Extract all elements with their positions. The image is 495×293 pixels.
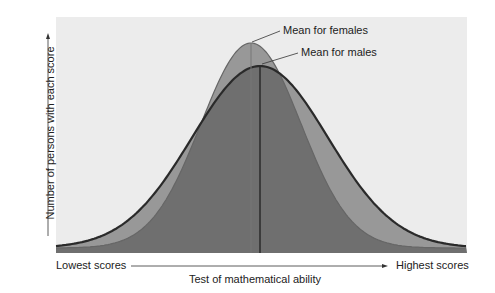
mean-females-label: Mean for females	[283, 24, 368, 36]
x-axis-title: Test of mathematical ability	[189, 273, 321, 285]
x-arrow-head-icon	[382, 264, 388, 268]
mean-males-label: Mean for males	[301, 46, 377, 58]
chart-canvas	[0, 0, 495, 293]
lowest-scores-label: Lowest scores	[56, 259, 126, 271]
highest-scores-label: Highest scores	[396, 259, 469, 271]
y-axis-title: Number of persons with each score	[44, 33, 56, 233]
